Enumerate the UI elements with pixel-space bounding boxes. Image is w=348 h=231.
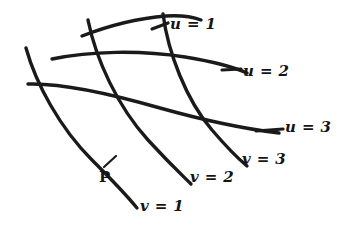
curve-label-u3: u = 3 xyxy=(285,120,331,135)
leader-line-u3 xyxy=(256,129,283,131)
curvilinear-grid-figure: u = 1 u = 2 u = 3 v = 3 v = 2 v = 1 P xyxy=(0,0,348,231)
curve-label-u2: u = 2 xyxy=(243,64,289,79)
curve-label-v2: v = 2 xyxy=(190,170,234,185)
curve-label-u1: u = 1 xyxy=(170,17,216,32)
point-label-p: P xyxy=(99,170,110,185)
curve-label-v3: v = 3 xyxy=(242,152,286,167)
curve-label-v1: v = 1 xyxy=(140,199,184,214)
leader-line-u2 xyxy=(222,69,241,70)
